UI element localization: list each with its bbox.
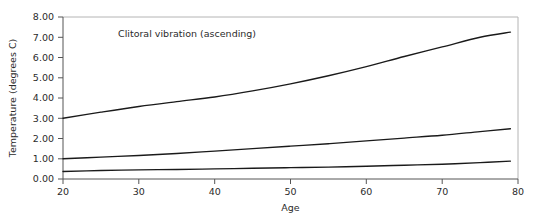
x-tick-label: 70 — [436, 186, 448, 197]
series-line-middle — [63, 129, 510, 159]
x-axis-title: Age — [281, 202, 300, 213]
x-tick-label: 60 — [360, 186, 372, 197]
x-tick-marks — [63, 179, 518, 184]
y-tick-label: 0.00 — [33, 173, 54, 184]
chart-annotation: Clitoral vibration (ascending) — [118, 28, 256, 39]
y-tick-label: 5.00 — [33, 72, 54, 83]
x-tick-label: 40 — [209, 186, 221, 197]
y-tick-label: 7.00 — [33, 32, 54, 43]
y-tick-label: 4.00 — [33, 92, 54, 103]
y-axis-title: Temperature (degrees C) — [7, 39, 18, 159]
series-group — [63, 32, 510, 171]
y-tick-labels: 0.00 1.00 2.00 3.00 4.00 5.00 6.00 7.00 … — [33, 11, 54, 184]
x-tick-labels: 20 30 40 50 60 70 80 — [57, 186, 524, 197]
x-tick-label: 30 — [133, 186, 145, 197]
line-chart: 0.00 1.00 2.00 3.00 4.00 5.00 6.00 7.00 … — [0, 0, 538, 216]
y-tick-label: 8.00 — [33, 11, 54, 22]
y-tick-label: 1.00 — [33, 153, 54, 164]
series-line-upper — [63, 32, 510, 118]
x-tick-label: 20 — [57, 186, 69, 197]
y-tick-marks — [58, 17, 63, 179]
x-tick-label: 80 — [512, 186, 524, 197]
series-line-lower — [63, 161, 510, 171]
x-tick-label: 50 — [284, 186, 296, 197]
y-tick-label: 6.00 — [33, 52, 54, 63]
y-tick-label: 2.00 — [33, 133, 54, 144]
y-tick-label: 3.00 — [33, 113, 54, 124]
chart-page: 0.00 1.00 2.00 3.00 4.00 5.00 6.00 7.00 … — [0, 0, 538, 216]
